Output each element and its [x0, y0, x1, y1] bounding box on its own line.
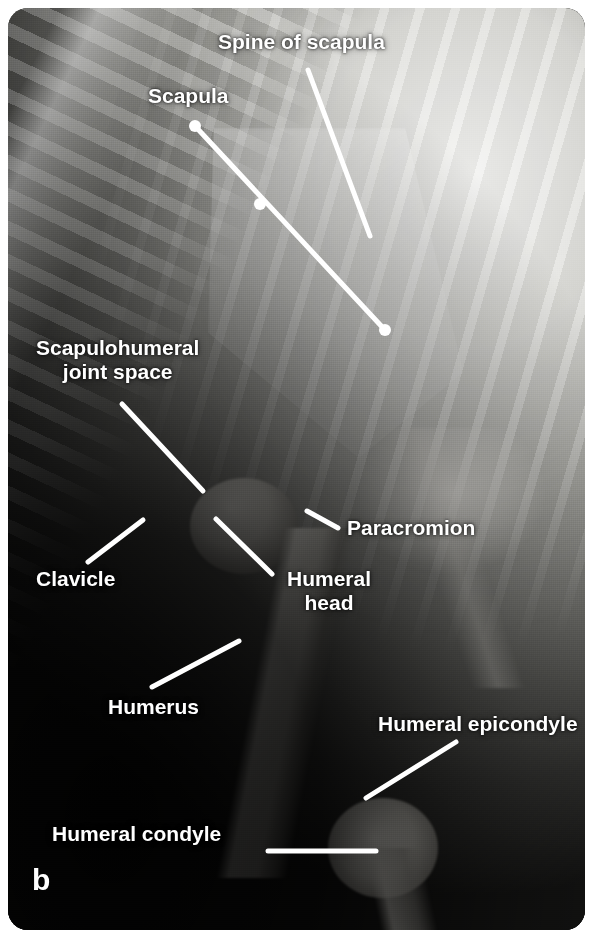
radiograph-figure: Spine of scapulaScapulaScapulohumeral jo…	[0, 0, 593, 950]
leader-line-paracromion	[307, 511, 338, 528]
leader-dot-scapula-0	[189, 120, 201, 132]
leader-line-spine-of-scapula	[308, 70, 370, 236]
panel-letter: b	[32, 863, 50, 897]
leader-line-scapula	[195, 126, 385, 330]
leader-dot-scapula-mid	[254, 198, 266, 210]
radiograph-plate: Spine of scapulaScapulaScapulohumeral jo…	[8, 8, 585, 930]
leader-line-layer	[8, 8, 585, 930]
leader-line-humeral-epicondyle	[366, 742, 456, 798]
leader-line-scapulohumeral-joint	[122, 404, 203, 491]
leader-line-humerus	[152, 641, 239, 687]
leader-dot-scapula-1	[379, 324, 391, 336]
leader-line-clavicle	[88, 520, 143, 562]
leader-line-humeral-head	[216, 519, 272, 574]
